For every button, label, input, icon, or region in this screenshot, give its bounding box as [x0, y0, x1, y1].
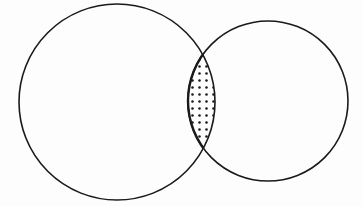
venn-diagram-canvas	[0, 0, 363, 206]
circle-a	[19, 4, 215, 200]
venn-diagram	[0, 0, 363, 206]
intersection-region	[188, 21, 348, 181]
